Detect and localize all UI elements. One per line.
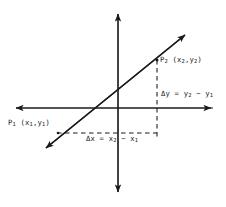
p2-coords-mid: ,y — [185, 55, 194, 64]
point-p2-marker — [156, 59, 159, 62]
diagram-canvas — [0, 0, 226, 207]
delta-y-minus: − y — [192, 89, 210, 98]
point-p2-label: P2 (x2,y2) — [160, 56, 202, 65]
p2-coords-close: ) — [198, 55, 203, 64]
delta-y-label: Δy = y2 − y1 — [161, 90, 213, 99]
point-p1-label: P1 (x1,y1) — [8, 119, 50, 128]
delta-y-sub2: 1 — [210, 92, 213, 98]
point-p1-marker — [57, 132, 60, 135]
delta-x-minus: − x — [117, 134, 135, 143]
p2-coords-open: (x — [168, 55, 182, 64]
p1-coords-mid: ,y — [33, 118, 42, 127]
slope-diagram: P2 (x2,y2) P1 (x1,y1) Δy = y2 − y1 Δx = … — [0, 0, 226, 207]
delta-x-label: Δx = x2 − x1 — [86, 135, 138, 144]
delta-x-sub2: 1 — [135, 137, 138, 143]
delta-y-prefix: Δy = y — [161, 89, 188, 98]
delta-x-prefix: Δx = x — [86, 134, 113, 143]
p1-coords-open: (x — [16, 118, 30, 127]
p1-coords-close: ) — [46, 118, 51, 127]
